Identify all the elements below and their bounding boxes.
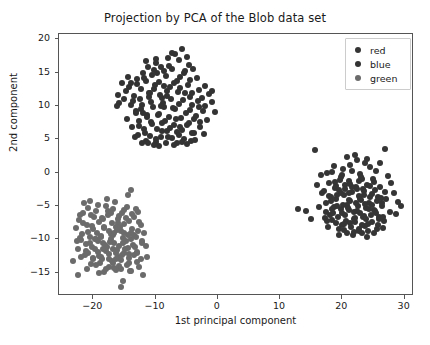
scatter-point bbox=[316, 204, 322, 210]
scatter-point bbox=[191, 130, 197, 136]
y-tick-label: 10 bbox=[16, 99, 50, 110]
scatter-point bbox=[87, 198, 93, 204]
scatter-point bbox=[323, 209, 329, 215]
scatter-point bbox=[369, 202, 375, 208]
scatter-point bbox=[131, 232, 137, 238]
scatter-point bbox=[356, 178, 362, 184]
scatter-point bbox=[149, 121, 155, 127]
scatter-point bbox=[77, 212, 83, 218]
scatter-point bbox=[73, 225, 79, 231]
scatter-point bbox=[171, 142, 177, 148]
scatter-point bbox=[393, 211, 399, 217]
scatter-point bbox=[308, 216, 314, 222]
scatter-point bbox=[136, 219, 142, 225]
legend-item[interactable]: red bbox=[351, 43, 405, 57]
scatter-point bbox=[75, 246, 81, 252]
scatter-point bbox=[199, 95, 205, 101]
scatter-point bbox=[134, 250, 140, 256]
scatter-point bbox=[196, 87, 202, 93]
y-tick-mark bbox=[55, 72, 59, 73]
scatter-point bbox=[161, 83, 167, 89]
legend-label: red bbox=[370, 45, 386, 56]
scatter-point bbox=[170, 105, 176, 111]
scatter-point bbox=[181, 70, 187, 76]
scatter-point bbox=[189, 102, 195, 108]
scatter-point bbox=[148, 99, 154, 105]
scatter-point bbox=[90, 255, 96, 261]
scatter-point bbox=[341, 221, 347, 227]
scatter-point bbox=[98, 234, 104, 240]
legend-item[interactable]: blue bbox=[351, 57, 405, 71]
y-tick-mark bbox=[55, 205, 59, 206]
x-tick-mark bbox=[92, 295, 93, 299]
scatter-point bbox=[209, 99, 215, 105]
scatter-point bbox=[106, 256, 112, 262]
scatter-point bbox=[190, 66, 196, 72]
scatter-point bbox=[165, 134, 171, 140]
scatter-point bbox=[153, 136, 159, 142]
scatter-point bbox=[373, 168, 379, 174]
scatter-point bbox=[360, 186, 366, 192]
scatter-point bbox=[169, 50, 175, 56]
scatter-point bbox=[165, 55, 171, 61]
scatter-point bbox=[114, 103, 120, 109]
scatter-point bbox=[177, 124, 183, 130]
x-axis-label: 1st principal component bbox=[58, 315, 413, 326]
scatter-point bbox=[123, 88, 129, 94]
pca-scatter-figure: Projection by PCA of the Blob data set −… bbox=[0, 0, 430, 345]
scatter-point bbox=[120, 240, 126, 246]
scatter-point bbox=[156, 143, 162, 149]
scatter-point bbox=[121, 207, 127, 213]
x-tick-mark bbox=[217, 295, 218, 299]
scatter-point bbox=[164, 93, 170, 99]
scatter-point bbox=[377, 160, 383, 166]
scatter-point bbox=[104, 196, 110, 202]
scatter-point bbox=[324, 170, 330, 176]
scatter-point bbox=[186, 120, 192, 126]
scatter-point bbox=[147, 90, 153, 96]
scatter-point bbox=[303, 208, 309, 214]
scatter-point bbox=[196, 104, 202, 110]
scatter-point bbox=[78, 254, 84, 260]
scatter-point bbox=[108, 210, 114, 216]
scatter-point bbox=[145, 64, 151, 70]
scatter-point bbox=[325, 224, 331, 230]
scatter-point bbox=[128, 80, 134, 86]
scatter-point bbox=[119, 80, 125, 86]
scatter-point bbox=[159, 128, 165, 134]
x-tick-label: 20 bbox=[321, 300, 361, 311]
scatter-point bbox=[312, 147, 318, 153]
y-tick-label: −10 bbox=[16, 232, 50, 243]
scatter-point bbox=[387, 209, 393, 215]
scatter-point bbox=[329, 169, 335, 175]
scatter-point bbox=[139, 140, 145, 146]
chart-title: Projection by PCA of the Blob data set bbox=[0, 11, 430, 25]
scatter-point bbox=[173, 116, 179, 122]
scatter-point bbox=[187, 77, 193, 83]
scatter-point bbox=[95, 202, 101, 208]
scatter-point bbox=[98, 254, 104, 260]
scatter-point bbox=[129, 211, 135, 217]
x-tick-label: −20 bbox=[72, 300, 112, 311]
scatter-point bbox=[346, 190, 352, 196]
scatter-point bbox=[118, 284, 124, 290]
scatter-point bbox=[380, 214, 386, 220]
scatter-point bbox=[126, 251, 132, 257]
legend-item[interactable]: green bbox=[351, 71, 405, 85]
scatter-point bbox=[176, 57, 182, 63]
scatter-point bbox=[202, 83, 208, 89]
scatter-point bbox=[346, 197, 352, 203]
scatter-point bbox=[123, 215, 129, 221]
scatter-point bbox=[361, 192, 367, 198]
scatter-point bbox=[85, 229, 91, 235]
scatter-point bbox=[100, 246, 106, 252]
y-tick-label: 15 bbox=[16, 66, 50, 77]
scatter-point bbox=[194, 75, 200, 81]
scatter-point bbox=[161, 68, 167, 74]
scatter-point bbox=[152, 82, 158, 88]
scatter-point bbox=[144, 114, 150, 120]
scatter-point bbox=[92, 236, 98, 242]
scatter-point bbox=[138, 256, 144, 262]
scatter-point bbox=[85, 205, 91, 211]
scatter-point bbox=[332, 179, 338, 185]
